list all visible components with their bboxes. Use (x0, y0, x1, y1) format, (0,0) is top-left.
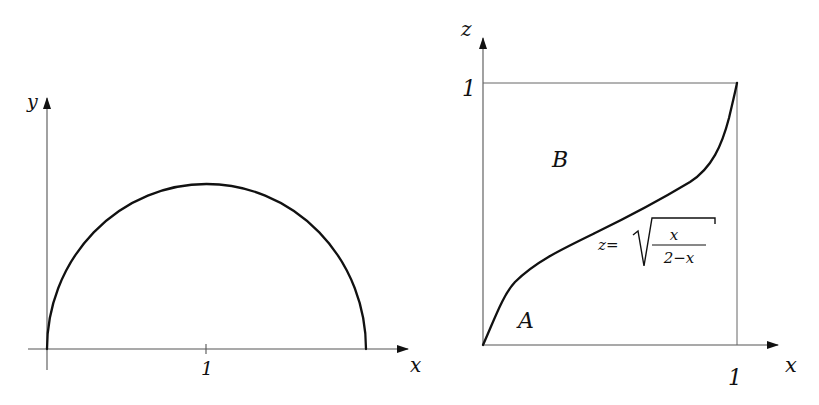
right-z-tick-label: 1 (462, 76, 476, 101)
left-panel: y x 1 (26, 90, 421, 379)
formula-denominator: 2−x (663, 249, 695, 267)
figure-canvas: y x 1 z x 1 1 B A z= x 2−x (0, 0, 819, 405)
right-x-axis-label: x (785, 353, 797, 377)
curve-formula: z= x 2−x (597, 218, 715, 267)
formula-lhs: z= (597, 236, 618, 254)
right-x-tick-label: 1 (728, 365, 742, 390)
formula-numerator: x (670, 226, 679, 244)
right-panel: z x 1 1 B A z= x 2−x (460, 17, 797, 390)
region-label-a: A (516, 308, 534, 333)
left-y-axis-label: y (26, 90, 38, 112)
right-z-axis-label: z (460, 17, 472, 41)
semicircle-curve (47, 184, 366, 349)
region-label-b: B (551, 147, 568, 172)
s-curve (483, 83, 737, 345)
left-x-axis-label: x (410, 353, 421, 377)
left-x-tick-label: 1 (201, 357, 213, 379)
